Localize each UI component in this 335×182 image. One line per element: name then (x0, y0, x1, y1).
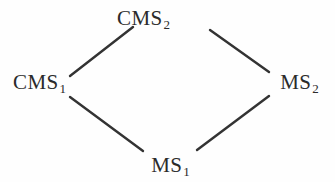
node-ms1: MS1 (151, 155, 188, 176)
edge-cms1-ms1 (70, 97, 143, 151)
node-cms2: CMS2 (117, 8, 169, 29)
node-ms2-subscript: 2 (312, 81, 319, 96)
node-cms1-base: CMS (13, 70, 58, 94)
node-cms1-subscript: 1 (59, 81, 66, 96)
edge-cms1-cms2 (70, 27, 133, 76)
edge-cms2-ms2 (210, 30, 269, 72)
node-cms1: CMS1 (13, 72, 65, 93)
node-ms2-base: MS (280, 70, 311, 94)
node-ms1-base: MS (151, 153, 182, 177)
hasse-diagram: CMS2 CMS1 MS2 MS1 (0, 0, 335, 182)
edge-ms1-ms2 (197, 96, 269, 150)
node-ms2: MS2 (280, 72, 317, 93)
node-cms2-base: CMS (117, 6, 162, 30)
node-cms2-subscript: 2 (163, 17, 170, 32)
node-ms1-subscript: 1 (183, 164, 190, 179)
